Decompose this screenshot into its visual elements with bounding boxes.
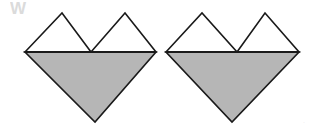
figure-canvas: W · [0, 0, 316, 130]
watermark-glyph: W [10, 0, 27, 18]
corner-mark: · [303, 119, 305, 125]
